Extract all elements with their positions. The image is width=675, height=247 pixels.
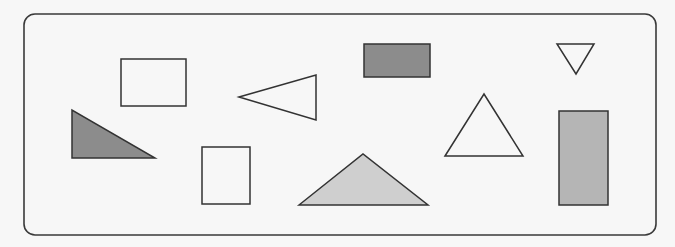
triangle-outline-inverted bbox=[557, 44, 594, 74]
obtuse-triangle-light bbox=[299, 154, 428, 205]
shapes-diagram bbox=[0, 0, 675, 247]
rectangle-outline-bottom bbox=[202, 147, 250, 204]
triangle-outline-left-pointing bbox=[239, 75, 316, 120]
right-triangle-dark bbox=[72, 110, 155, 158]
rectangle-dark-top bbox=[364, 44, 430, 77]
rectangle-gray-tall bbox=[559, 111, 608, 205]
rectangle-outline-top-left bbox=[121, 59, 186, 106]
shape-layer bbox=[72, 44, 608, 205]
triangle-outline-upright bbox=[445, 94, 523, 156]
